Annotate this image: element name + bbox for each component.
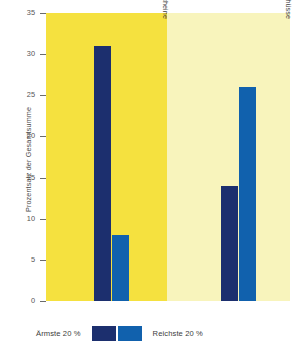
- chart-container: Prozentsatz der Gesamtsumme 051015202530…: [0, 0, 296, 352]
- y-tick-mark: [40, 301, 46, 302]
- y-tick: 15: [0, 178, 46, 179]
- y-tick: 10: [0, 219, 46, 220]
- y-tick: 25: [0, 95, 46, 96]
- plot-area: Lebensmittelgutscheine Lebensmittelzusch…: [46, 13, 290, 301]
- y-tick-label: 20: [11, 131, 35, 140]
- y-tick: 30: [0, 54, 46, 55]
- panel-lebensmittelzuschuesse: Lebensmittelzuschüsse: [167, 13, 290, 301]
- y-tick-label: 25: [11, 90, 35, 99]
- y-tick: 5: [0, 260, 46, 261]
- bar: [221, 186, 238, 301]
- legend-swatch-poorest: [92, 326, 116, 341]
- panel-lebensmittelgutscheine: Lebensmittelgutscheine: [46, 13, 167, 301]
- legend-swatch-richest: [118, 326, 142, 341]
- legend-label-richest: Reichste 20 %: [153, 329, 203, 338]
- y-tick: 35: [0, 13, 46, 14]
- y-tick-label: 30: [11, 49, 35, 58]
- y-tick-label: 0: [11, 296, 35, 305]
- y-tick: 0: [0, 301, 46, 302]
- y-tick-label: 15: [11, 173, 35, 182]
- y-tick-label: 5: [11, 255, 35, 264]
- panel-label-1: Lebensmittelzuschüsse: [284, 0, 293, 19]
- y-tick-label: 10: [11, 214, 35, 223]
- bar: [94, 46, 111, 301]
- y-axis-ticks: 05101520253035: [0, 13, 46, 301]
- legend-label-poorest: Ärmste 20 %: [36, 329, 81, 338]
- y-tick-label: 35: [11, 8, 35, 17]
- y-tick: 20: [0, 136, 46, 137]
- bar: [239, 87, 256, 301]
- chart-legend: Ärmste 20 % Reichste 20 %: [0, 326, 296, 352]
- bar: [112, 235, 129, 301]
